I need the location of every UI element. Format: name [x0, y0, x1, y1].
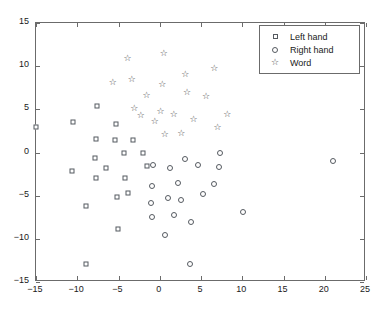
y-axis-tick — [36, 282, 40, 283]
legend-marker-square-icon — [260, 34, 290, 39]
data-point-square — [114, 195, 119, 200]
x-axis-tick-top — [160, 23, 161, 27]
data-point-circle — [330, 158, 336, 164]
y-axis-tick — [36, 109, 40, 110]
data-point-circle — [171, 212, 177, 218]
data-point-circle — [188, 219, 194, 225]
square-glyph — [273, 34, 278, 39]
data-point-square — [94, 176, 99, 181]
y-axis-tick — [36, 153, 40, 154]
data-point-square — [114, 122, 119, 127]
data-point-circle — [182, 156, 188, 162]
y-axis-tick-right — [360, 153, 364, 154]
data-point-star: ☆ — [181, 69, 190, 78]
y-axis-tick-label: 0 — [0, 146, 29, 157]
x-axis-tick — [36, 276, 37, 280]
data-point-star: ☆ — [142, 90, 151, 99]
data-point-star: ☆ — [150, 117, 159, 126]
star-glyph: ☆ — [271, 58, 279, 67]
x-axis-tick — [366, 276, 367, 280]
scatter-plot-figure: ☆☆☆☆☆☆☆☆☆☆☆☆☆☆☆☆☆☆☆☆ −15−10−50510152025−… — [0, 0, 385, 315]
y-axis-tick — [36, 66, 40, 67]
x-axis-tick-label: 20 — [304, 284, 344, 295]
y-axis-tick — [36, 239, 40, 240]
x-axis-tick-top — [119, 23, 120, 27]
data-point-square — [113, 137, 118, 142]
data-point-star: ☆ — [136, 110, 145, 119]
y-axis-tick-label: −10 — [0, 232, 29, 243]
y-axis-tick-right — [360, 196, 364, 197]
data-point-square — [93, 155, 98, 160]
data-point-circle — [162, 232, 168, 238]
data-point-circle — [187, 261, 193, 267]
data-point-star: ☆ — [210, 63, 219, 72]
legend-item-star: ☆Word — [260, 56, 359, 69]
y-axis-tick-right — [360, 239, 364, 240]
data-point-circle — [149, 214, 155, 220]
x-axis-tick — [284, 276, 285, 280]
x-axis-tick-label: 15 — [263, 284, 303, 295]
data-point-square — [122, 151, 127, 156]
data-point-square — [83, 261, 88, 266]
data-point-star: ☆ — [130, 103, 139, 112]
legend-label: Left hand — [290, 32, 328, 42]
data-point-circle — [211, 181, 217, 187]
x-axis-tick-label: 25 — [345, 284, 385, 295]
data-point-star: ☆ — [127, 75, 136, 84]
data-point-circle — [167, 165, 173, 171]
data-point-star: ☆ — [123, 54, 132, 63]
y-axis-tick-right — [360, 282, 364, 283]
data-point-circle — [148, 200, 154, 206]
data-point-star: ☆ — [169, 109, 178, 118]
data-point-star: ☆ — [177, 128, 186, 137]
data-point-circle — [165, 195, 171, 201]
y-axis-tick — [36, 23, 40, 24]
data-point-star: ☆ — [159, 49, 168, 58]
x-axis-tick — [77, 276, 78, 280]
data-point-star: ☆ — [189, 114, 198, 123]
y-axis-tick-label: 10 — [0, 59, 29, 70]
legend-label: Right hand — [290, 45, 334, 55]
data-point-star: ☆ — [213, 122, 222, 131]
legend-marker-circle-icon — [260, 47, 290, 53]
y-axis-tick-right — [360, 23, 364, 24]
legend-item-circle: Right hand — [260, 43, 359, 56]
data-point-star: ☆ — [160, 130, 169, 139]
x-axis-tick-label: 10 — [221, 284, 261, 295]
x-axis-tick-top — [366, 23, 367, 27]
data-point-circle — [200, 191, 206, 197]
data-point-circle — [150, 162, 156, 168]
data-point-star: ☆ — [182, 88, 191, 97]
x-axis-tick — [160, 276, 161, 280]
data-point-star: ☆ — [156, 107, 165, 116]
y-axis-tick-label: 5 — [0, 102, 29, 113]
y-axis-tick-right — [360, 109, 364, 110]
data-point-square — [123, 175, 128, 180]
y-axis-tick-label: −5 — [0, 189, 29, 200]
legend-item-square: Left hand — [260, 30, 359, 43]
data-point-square — [144, 164, 149, 169]
x-axis-tick-top — [201, 23, 202, 27]
data-point-square — [95, 103, 100, 108]
x-axis-tick — [242, 276, 243, 280]
data-point-star: ☆ — [108, 77, 117, 86]
data-point-square — [141, 150, 146, 155]
x-axis-tick — [119, 276, 120, 280]
x-axis-tick-label: −10 — [56, 284, 96, 295]
data-point-circle — [178, 197, 184, 203]
y-axis-tick-label: 15 — [0, 16, 29, 27]
data-point-square — [125, 191, 130, 196]
y-axis-tick-right — [360, 66, 364, 67]
x-axis-tick-top — [242, 23, 243, 27]
data-point-circle — [195, 162, 201, 168]
data-point-circle — [240, 209, 246, 215]
data-point-square — [84, 204, 89, 209]
x-axis-tick-label: 5 — [180, 284, 220, 295]
data-point-star: ☆ — [223, 109, 232, 118]
y-axis-tick — [36, 196, 40, 197]
data-point-square — [94, 136, 99, 141]
legend-marker-star-icon: ☆ — [260, 58, 290, 67]
x-axis-tick — [325, 276, 326, 280]
data-point-star: ☆ — [158, 80, 167, 89]
data-point-circle — [217, 150, 223, 156]
